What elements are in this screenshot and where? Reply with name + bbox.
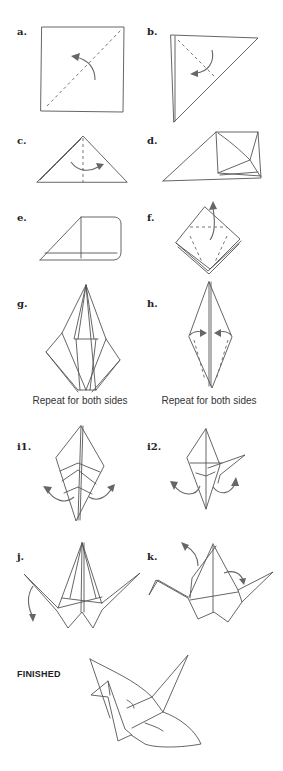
step-d-diagram xyxy=(163,132,261,181)
step-c-diagram xyxy=(37,136,127,182)
step-i1-diagram xyxy=(43,426,115,521)
step-a-diagram xyxy=(41,27,124,112)
step-e-diagram xyxy=(40,217,121,260)
step-b-diagram xyxy=(171,35,258,122)
diagram-canvas xyxy=(0,0,283,771)
step-k-diagram xyxy=(149,542,273,622)
step-j-diagram xyxy=(24,543,140,628)
step-f-diagram xyxy=(176,201,241,274)
step-i2-diagram xyxy=(170,429,245,509)
step-h-diagram xyxy=(189,282,232,388)
finished-crane-diagram xyxy=(90,655,201,747)
step-g-diagram xyxy=(46,285,120,392)
